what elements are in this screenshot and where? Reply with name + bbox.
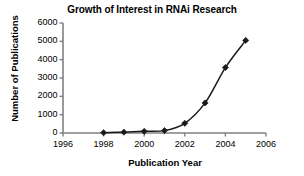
data-series-line <box>104 40 246 132</box>
y-tick-label: 3000 <box>24 73 58 82</box>
y-tick-label: 0 <box>24 128 58 137</box>
x-tick-label: 2006 <box>249 140 283 149</box>
axes <box>63 23 266 133</box>
x-tick-label: 1998 <box>87 140 121 149</box>
data-point-marker <box>121 129 127 135</box>
y-tick-label: 2000 <box>24 91 58 100</box>
y-tick-label: 5000 <box>24 36 58 45</box>
x-tick-label: 2002 <box>168 140 202 149</box>
x-tick-label: 1996 <box>46 140 80 149</box>
y-tick-label: 4000 <box>24 55 58 64</box>
y-tick-label: 1000 <box>24 110 58 119</box>
y-tick-label: 6000 <box>24 18 58 27</box>
data-point-markers <box>101 37 249 135</box>
x-tick-label: 2000 <box>127 140 161 149</box>
x-tick-label: 2004 <box>208 140 242 149</box>
chart-figure: Growth of Interest in RNAi Research Numb… <box>0 0 304 176</box>
data-point-marker <box>101 130 107 136</box>
